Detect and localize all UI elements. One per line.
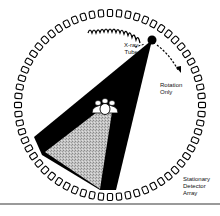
detector-element [35, 42, 44, 50]
detector-element [18, 128, 26, 135]
detector-element [89, 191, 95, 199]
detector-element [157, 24, 165, 33]
detector-element [16, 84, 24, 90]
detector-element [35, 159, 44, 167]
label-line: Tube [124, 49, 138, 56]
detector-element [171, 166, 180, 175]
detector-element [21, 66, 29, 73]
detector-element [25, 144, 34, 152]
detector-element [15, 93, 22, 99]
detector-element [55, 24, 63, 33]
detector-element [125, 11, 131, 19]
detector-element [98, 193, 104, 200]
detector-element [199, 102, 206, 107]
patient [92, 99, 118, 115]
detector-element [116, 193, 122, 200]
detector-element [18, 75, 26, 82]
label-line: X-ray [124, 42, 138, 49]
detector-element [149, 182, 157, 191]
detector-element [125, 191, 131, 199]
detector-element [177, 42, 186, 50]
detector-element [41, 36, 50, 45]
detector-element [29, 152, 38, 160]
detector-element [196, 84, 204, 90]
detector-element [21, 136, 29, 143]
detector-element [71, 16, 78, 24]
detector-element [157, 177, 165, 186]
detector-element [98, 10, 104, 17]
x-ray-tube-label: X-ray Tube [124, 42, 138, 56]
detector-array-label: Stationary Detector Array [183, 176, 210, 197]
detector-element [182, 50, 191, 58]
label-line: Rotation [160, 82, 182, 89]
detector-element [15, 102, 22, 107]
detector-element [80, 13, 87, 21]
detector-element [198, 93, 205, 99]
detector-element [55, 177, 63, 186]
label-line: Array [183, 190, 210, 197]
rotation-label: Rotation Only [160, 82, 182, 96]
detector-element [47, 172, 55, 181]
detector-element [89, 11, 95, 19]
detector-element [187, 58, 196, 66]
detector-element [15, 111, 22, 117]
detector-element [80, 189, 87, 197]
detector-element [182, 152, 191, 160]
bottom-divider [0, 203, 220, 205]
detector-element [164, 172, 172, 181]
detector-element [107, 10, 112, 17]
label-line: Stationary [183, 176, 210, 183]
detector-element [196, 120, 204, 126]
detector-element [141, 16, 148, 24]
detector-element [116, 10, 122, 17]
detector-element [171, 36, 180, 45]
detector-element [194, 75, 202, 82]
detector-element [191, 136, 199, 143]
detector-element [194, 128, 202, 135]
detector-element [71, 186, 78, 194]
detector-element [177, 159, 186, 167]
detector-element [41, 166, 50, 175]
tube-track-coil [88, 29, 140, 43]
detector-element [107, 194, 112, 201]
label-line: Detector [183, 183, 210, 190]
detector-element [63, 182, 71, 191]
detector-element [25, 58, 34, 66]
detector-element [63, 20, 71, 29]
detector-element [164, 30, 172, 39]
detector-element [29, 50, 38, 58]
detector-element [198, 111, 205, 117]
detector-element [133, 13, 140, 21]
rotation-arrow [157, 45, 181, 73]
x-ray-tube [148, 36, 157, 45]
detector-element [141, 186, 148, 194]
detector-element [187, 144, 196, 152]
detector-element [16, 120, 24, 126]
label-line: Only [160, 89, 182, 96]
detector-element [191, 66, 199, 73]
detector-element [133, 189, 140, 197]
detector-element [47, 30, 55, 39]
detector-element [149, 20, 157, 29]
